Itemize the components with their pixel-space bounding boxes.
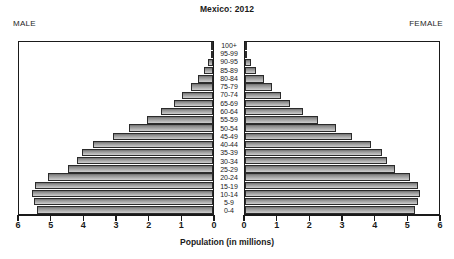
bar-row [245,99,439,107]
bar-row [245,173,439,181]
bar-row [19,165,213,173]
bar-male-65-69 [174,100,213,107]
bar-row [245,83,439,91]
bar-female-15-19 [245,182,418,189]
female-x-tick-labels: 0123456 [244,220,440,234]
age-label-90-95: 90-95 [214,58,244,66]
bar-male-45-49 [113,133,213,140]
bar-female-70-74 [245,92,281,99]
bar-row [245,189,439,197]
female-bar-rows [245,42,439,214]
bar-male-25-29 [68,165,214,172]
bar-female-95-99 [245,51,247,58]
bar-female-35-39 [245,149,382,156]
bar-male-40-44 [93,141,213,148]
age-label-50-54: 50-54 [214,124,244,132]
male-x-tick-labels: 6543210 [18,220,214,234]
bar-row [19,67,213,75]
axis-tick-label: 5 [405,220,410,230]
axis-tick-label: 4 [81,220,86,230]
age-label-40-44: 40-44 [214,140,244,148]
bar-female-5-9 [245,198,418,205]
female-side-label: FEMALE [409,19,443,28]
bar-row [245,206,439,214]
age-label-75-79: 75-79 [214,83,244,91]
bar-row [19,99,213,107]
bar-row [19,58,213,66]
bar-row [19,83,213,91]
bar-row [19,173,213,181]
axis-tick-label: 6 [15,220,20,230]
age-label-70-74: 70-74 [214,91,244,99]
bar-female-30-34 [245,157,387,164]
axis-tick-label: 2 [307,220,312,230]
age-label-15-19: 15-19 [214,182,244,190]
axis-tick-label: 3 [113,220,118,230]
bar-male-5-9 [34,198,213,205]
bar-female-40-44 [245,141,371,148]
axis-tick-label: 0 [241,220,246,230]
bar-male-80-84 [198,75,213,82]
age-label-45-49: 45-49 [214,132,244,140]
bar-row [245,116,439,124]
bar-female-75-79 [245,83,272,90]
bar-female-90-95 [245,59,251,66]
bar-male-15-19 [35,182,213,189]
bar-row [245,157,439,165]
bar-male-55-59 [147,116,213,123]
age-label-25-29: 25-29 [214,165,244,173]
bar-row [19,149,213,157]
chart-title: Mexico: 2012 [0,4,454,14]
bar-male-60-64 [161,108,213,115]
bar-female-10-14 [245,190,420,197]
bar-row [19,75,213,83]
age-label-30-34: 30-34 [214,157,244,165]
age-label-85-89: 85-89 [214,66,244,74]
bar-male-0-4 [37,206,213,213]
bar-row [245,75,439,83]
age-label-65-69: 65-69 [214,99,244,107]
bar-male-100+ [211,42,213,49]
bar-male-95-99 [211,51,213,58]
bar-row [245,50,439,58]
x-axis-title: Population (in millions) [0,237,454,247]
bar-female-50-54 [245,124,336,131]
age-label-10-14: 10-14 [214,190,244,198]
bar-row [19,140,213,148]
bar-row [19,181,213,189]
bar-row [19,206,213,214]
bar-row [245,132,439,140]
axis-tick-label: 6 [437,220,442,230]
bar-female-0-4 [245,206,415,213]
bar-row [19,116,213,124]
bar-row [19,132,213,140]
axis-tick-label: 5 [48,220,53,230]
female-plot-panel [244,41,440,215]
male-bar-rows [19,42,213,214]
bar-female-60-64 [245,108,303,115]
axis-tick-label: 1 [179,220,184,230]
age-label-55-59: 55-59 [214,116,244,124]
bar-female-45-49 [245,133,352,140]
population-pyramid-chart: Mexico: 2012 MALE FEMALE 0-45-910-1415-1… [0,0,454,259]
bar-female-20-24 [245,173,410,180]
bar-row [245,140,439,148]
bar-row [19,91,213,99]
bar-row [19,189,213,197]
bar-female-100+ [245,42,247,49]
bar-row [245,165,439,173]
age-label-20-24: 20-24 [214,174,244,182]
age-label-60-64: 60-64 [214,107,244,115]
bar-male-75-79 [191,83,213,90]
bar-row [19,50,213,58]
bar-male-85-89 [204,67,213,74]
axis-tick-label: 4 [372,220,377,230]
bar-row [245,67,439,75]
bar-row [245,42,439,50]
bar-row [245,149,439,157]
age-label-100+: 100+ [214,41,244,49]
bar-male-35-39 [82,149,213,156]
bar-row [19,108,213,116]
age-label-5-9: 5-9 [214,198,244,206]
male-plot-panel [18,41,214,215]
